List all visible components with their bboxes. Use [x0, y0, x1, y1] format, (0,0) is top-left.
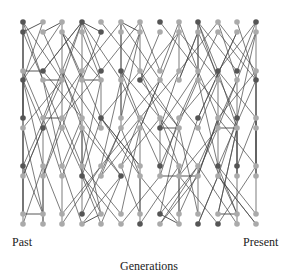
individual-node	[40, 19, 46, 25]
individual-node	[215, 68, 221, 74]
parent-child-edge	[82, 214, 101, 224]
individual-node	[195, 221, 201, 227]
parent-child-edge	[62, 128, 101, 214]
parent-child-edge	[160, 71, 179, 128]
individual-node	[118, 68, 124, 74]
parent-child-edge	[160, 128, 179, 214]
individual-node	[234, 173, 240, 179]
parent-child-edge	[62, 22, 82, 71]
parent-child-edge	[121, 32, 140, 118]
parent-child-edge	[121, 71, 140, 118]
individual-node	[59, 77, 65, 83]
individual-node	[20, 173, 26, 179]
individual-node	[176, 211, 182, 217]
individual-node	[20, 19, 26, 25]
parent-child-edge	[179, 22, 198, 71]
individual-node	[234, 221, 240, 227]
individual-node	[20, 211, 26, 217]
parent-child-edge	[179, 176, 218, 224]
individual-node	[176, 68, 182, 74]
individual-node	[253, 68, 259, 74]
individual-node	[118, 115, 124, 121]
individual-node	[176, 77, 182, 83]
individual-node	[253, 125, 259, 131]
parent-child-edge	[23, 80, 43, 128]
parent-child-edge	[62, 22, 82, 80]
individual-node	[253, 211, 259, 217]
individual-node	[157, 163, 163, 169]
individual-node	[137, 29, 143, 35]
individual-node	[195, 173, 201, 179]
parent-child-edge	[160, 80, 198, 128]
individual-node	[118, 19, 124, 25]
individual-node	[195, 163, 201, 169]
parent-child-edge	[140, 80, 179, 128]
parent-child-edge	[237, 32, 256, 80]
parent-child-edge	[218, 80, 237, 128]
individual-node	[215, 211, 221, 217]
parent-child-edge	[82, 80, 101, 166]
individual-node	[79, 68, 85, 74]
individual-node	[118, 173, 124, 179]
parent-child-edge	[179, 118, 198, 176]
individual-node	[118, 29, 124, 35]
parent-child-edge	[23, 166, 43, 214]
individual-node	[253, 77, 259, 83]
parent-child-edge	[160, 22, 179, 71]
parent-child-edge	[121, 80, 160, 166]
individual-node	[20, 221, 26, 227]
individual-node	[40, 221, 46, 227]
parent-child-edge	[198, 80, 218, 128]
individual-node	[20, 68, 26, 74]
individual-node	[157, 221, 163, 227]
parent-child-edge	[43, 80, 62, 166]
individual-node	[195, 19, 201, 25]
individual-node	[157, 68, 163, 74]
individual-node	[195, 125, 201, 131]
individual-node	[137, 19, 143, 25]
parent-child-edge	[121, 128, 140, 214]
parent-child-edge	[121, 22, 140, 32]
individual-node	[176, 19, 182, 25]
present-label: Present	[243, 235, 278, 250]
parent-child-edge	[140, 176, 179, 224]
individual-node	[59, 29, 65, 35]
parent-child-edge	[140, 118, 179, 166]
parent-child-edge	[160, 214, 179, 224]
individual-node	[215, 77, 221, 83]
individual-node	[118, 221, 124, 227]
individual-node	[20, 115, 26, 121]
individual-node	[234, 163, 240, 169]
parent-child-edge	[23, 71, 43, 118]
parent-child-edge	[198, 22, 218, 71]
individual-node	[157, 77, 163, 83]
individual-node	[176, 221, 182, 227]
individual-node	[176, 29, 182, 35]
individual-node	[176, 115, 182, 121]
parent-child-edge	[198, 176, 218, 224]
individual-node	[79, 125, 85, 131]
individual-node	[98, 125, 104, 131]
individual-node	[215, 19, 221, 25]
individual-node	[195, 115, 201, 121]
parent-child-edge	[198, 80, 218, 166]
individual-node	[253, 115, 259, 121]
individual-node	[40, 211, 46, 217]
individual-node	[20, 125, 26, 131]
parent-child-edge	[82, 118, 101, 176]
individual-node	[234, 211, 240, 217]
individual-node	[157, 115, 163, 121]
individual-node	[40, 29, 46, 35]
individual-node	[20, 77, 26, 83]
individual-node	[40, 115, 46, 121]
individual-node	[20, 163, 26, 169]
individual-node	[234, 77, 240, 83]
individual-node	[98, 115, 104, 121]
parent-child-edge	[140, 80, 160, 128]
parent-child-edge	[160, 32, 179, 80]
individual-node	[215, 221, 221, 227]
individual-node	[234, 115, 240, 121]
individual-node	[40, 125, 46, 131]
individual-node	[137, 68, 143, 74]
parent-child-edge	[23, 80, 43, 166]
